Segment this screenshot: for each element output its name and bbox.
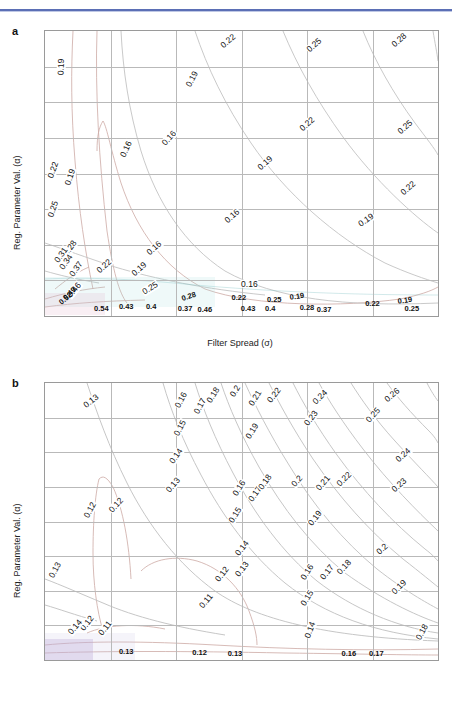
x-tick-mark xyxy=(111,316,112,317)
x-tick-mark xyxy=(242,316,243,317)
y-tick-mark xyxy=(44,138,45,139)
y-tick-mark xyxy=(44,209,45,210)
y-tick-mark xyxy=(44,556,45,557)
x-tick-mark xyxy=(307,316,308,317)
gridline-horizontal xyxy=(45,522,438,523)
y-tick-mark xyxy=(44,67,45,68)
x-tick-mark xyxy=(438,660,439,661)
y-tick-mark xyxy=(44,625,45,626)
gridline-horizontal xyxy=(45,67,438,68)
gridline-horizontal xyxy=(45,245,438,246)
y-tick-mark xyxy=(44,591,45,592)
x-tick-mark xyxy=(373,660,374,661)
x-tick-mark xyxy=(45,660,46,661)
x-tick-mark xyxy=(111,660,112,661)
contour-label: 0.16 xyxy=(341,650,357,659)
panel-a-plot-area: 0.511.522.533.55101520253035400.190.220.… xyxy=(44,30,439,317)
contour-label: 0.22 xyxy=(365,300,381,309)
y-tick-mark xyxy=(44,522,45,523)
y-tick-mark xyxy=(44,383,45,384)
contour-label: 0.43 xyxy=(240,305,256,314)
contour-label: 0.13 xyxy=(118,647,134,656)
contour-label: 0.12 xyxy=(192,649,208,658)
x-tick-mark xyxy=(176,660,177,661)
contour-label: 0.22 xyxy=(231,294,247,303)
gridline-horizontal xyxy=(45,102,438,103)
contour-label: 0.37 xyxy=(316,305,332,314)
x-tick-mark xyxy=(373,316,374,317)
panel-a-y-axis-label: Reg. Parameter Val. (α) xyxy=(12,155,22,250)
page-header-rule-secondary xyxy=(0,11,452,12)
panel-b-letter: b xyxy=(12,378,19,389)
y-tick-mark xyxy=(44,418,45,419)
gridline-horizontal xyxy=(45,452,438,453)
contour-label: 0.16 xyxy=(241,280,259,289)
panel-b-plot-area: 0.511.522.533.55101520253035400.130.160.… xyxy=(44,382,439,661)
panel-a-x-axis-label: Filter Spread (σ) xyxy=(207,338,273,348)
contour-label: 0.46 xyxy=(197,305,213,314)
x-tick-mark xyxy=(45,316,46,317)
x-tick-mark xyxy=(176,316,177,317)
contour-label: 0.25 xyxy=(404,305,420,314)
gridline-horizontal xyxy=(45,591,438,592)
x-tick-mark xyxy=(307,660,308,661)
panel-a: a Reg. Parameter Val. (α) xyxy=(0,18,452,368)
gridline-horizontal xyxy=(45,138,438,139)
panel-b-y-axis-label: Reg. Parameter Val. (α) xyxy=(12,503,22,598)
contour-label: 0.25 xyxy=(266,295,282,304)
panel-b: b Reg. Parameter Val. (α) xyxy=(0,370,452,712)
contour-label: 0.4 xyxy=(265,305,276,314)
contour-label: 0.43 xyxy=(118,303,134,312)
x-tick-mark xyxy=(242,660,243,661)
x-tick-mark xyxy=(438,316,439,317)
contour-label: 0.4 xyxy=(145,303,156,312)
y-tick-mark xyxy=(44,452,45,453)
contour-label: 0.17 xyxy=(369,650,385,659)
gridline-horizontal xyxy=(45,209,438,210)
contour-label: 0.13 xyxy=(227,650,243,659)
y-tick-mark xyxy=(44,280,45,281)
y-tick-mark xyxy=(44,102,45,103)
gridline-horizontal xyxy=(45,174,438,175)
contour-label: 0.37 xyxy=(177,305,193,314)
panel-a-letter: a xyxy=(12,26,18,37)
contour-label: 0.19 xyxy=(56,58,65,76)
y-tick-mark xyxy=(44,31,45,32)
gridline-horizontal xyxy=(45,418,438,419)
y-tick-mark xyxy=(44,487,45,488)
contour-label: 0.28 xyxy=(299,304,315,313)
y-tick-mark xyxy=(44,245,45,246)
figure-page: a Reg. Parameter Val. (α) xyxy=(0,0,452,712)
contour-label: 0.54 xyxy=(94,305,110,314)
